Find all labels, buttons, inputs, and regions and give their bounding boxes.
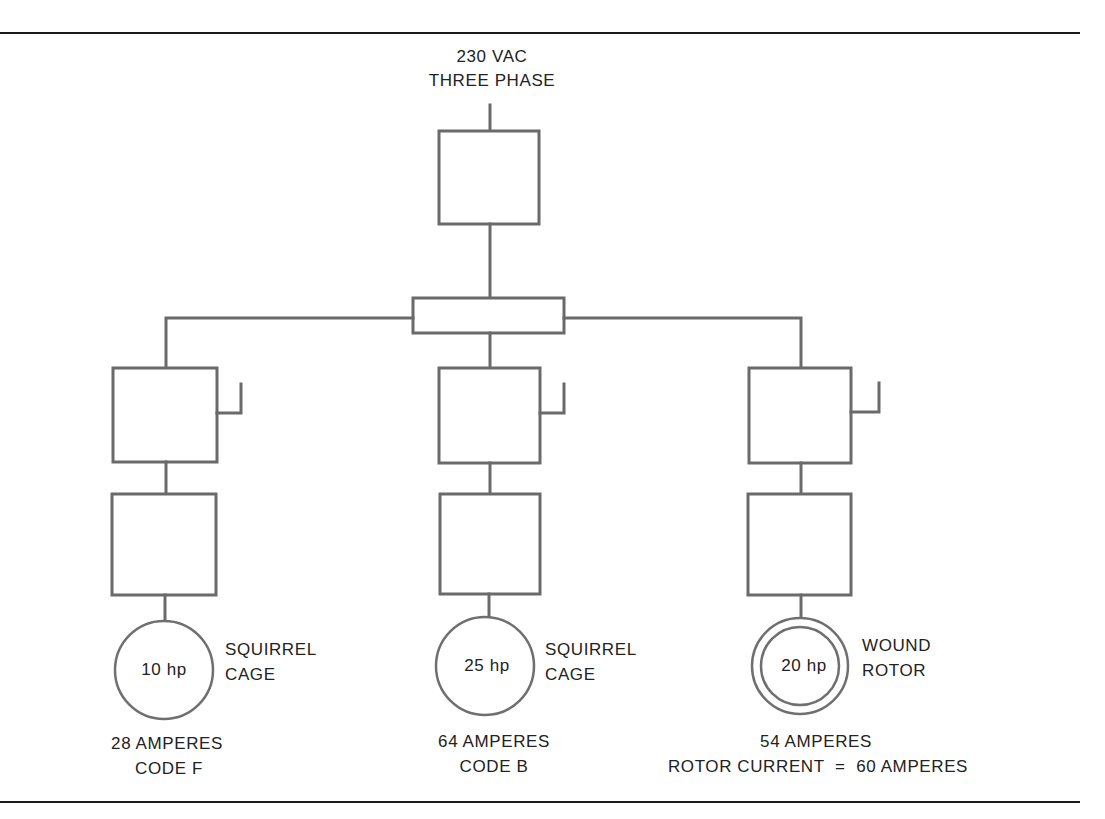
main-disconnect-box xyxy=(439,131,539,224)
control-hook-1 xyxy=(217,384,241,413)
motor-2-current-label: 64 AMPERES xyxy=(438,731,550,753)
branch-line-right xyxy=(564,318,801,368)
motor-2-hp-label: 25 hp xyxy=(464,655,510,677)
motor-3-type-line2: ROTOR xyxy=(862,660,926,682)
motor-1-type-line1: SQUIRREL xyxy=(225,639,317,661)
supply-voltage-label: 230 VAC xyxy=(457,46,528,68)
motor-3-type-line1: WOUND xyxy=(862,635,931,657)
branch-protection-box-2 xyxy=(439,368,540,463)
motor-1-type-line2: CAGE xyxy=(225,664,276,686)
branch-protection-box-3 xyxy=(749,368,851,463)
motor-2-code-label: CODE B xyxy=(460,756,529,778)
branch-line-left xyxy=(166,318,413,368)
motor-2-type-line1: SQUIRREL xyxy=(545,639,637,661)
motor-1-hp-label: 10 hp xyxy=(141,659,187,681)
motor-1-code-label: CODE F xyxy=(135,758,203,780)
bus-bar xyxy=(413,298,564,333)
supply-phase-label: THREE PHASE xyxy=(429,70,556,92)
motor-2-type-line2: CAGE xyxy=(545,664,596,686)
motor-1-current-label: 28 AMPERES xyxy=(111,733,223,755)
motor-controller-box-2 xyxy=(440,494,540,594)
motor-3-hp-label: 20 hp xyxy=(781,655,827,677)
motor-3-current-label: 54 AMPERES xyxy=(760,731,872,753)
motor-controller-box-3 xyxy=(748,494,851,595)
control-hook-2 xyxy=(540,384,564,413)
motor-3-rotor-current-label: ROTOR CURRENT = 60 AMPERES xyxy=(668,756,968,778)
one-line-diagram xyxy=(0,0,1105,819)
motor-controller-box-1 xyxy=(112,494,216,595)
branch-protection-box-1 xyxy=(113,368,217,462)
control-hook-3 xyxy=(851,383,879,412)
